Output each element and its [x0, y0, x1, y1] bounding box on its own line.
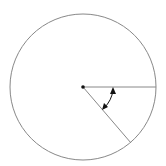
- arrowhead-top-icon: [110, 87, 116, 94]
- center-point: [81, 85, 85, 89]
- circle-angle-diagram: [0, 0, 166, 166]
- diagram-canvas: [0, 0, 166, 166]
- diagonal-radius: [83, 87, 131, 143]
